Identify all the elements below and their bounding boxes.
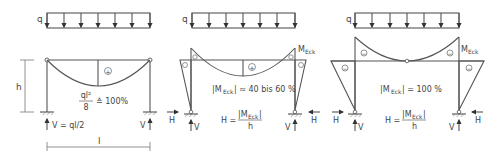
svg-text:V: V <box>140 121 146 130</box>
svg-text:V = ql/2: V = ql/2 <box>52 121 84 130</box>
frame-1: q + ql² 8 ≙ 100% h V = ql/2 V <box>16 13 157 151</box>
svg-text:H: H <box>311 116 317 125</box>
frame-2: q + M Eck |M Eck | ≈ 40 bis 60 % H = <box>167 13 320 132</box>
svg-text:q: q <box>346 14 352 24</box>
hinge-icon <box>353 110 357 114</box>
svg-text:−: − <box>342 65 347 72</box>
svg-text:|: | <box>423 110 426 119</box>
svg-text:h: h <box>248 122 253 131</box>
svg-text:V: V <box>358 123 364 132</box>
distributed-load-3: q <box>346 13 459 28</box>
svg-text:Eck: Eck <box>223 88 234 95</box>
svg-text:|: | <box>259 110 262 119</box>
distributed-load-2: q <box>182 13 295 28</box>
svg-text:V: V <box>285 123 291 132</box>
svg-text:V: V <box>194 123 200 132</box>
svg-text:ql²: ql² <box>81 91 92 100</box>
svg-text:|M: |M <box>212 85 222 94</box>
svg-text:−: − <box>466 65 471 72</box>
frame-3: q − − − − M Eck |M Eck | = 100 % <box>331 13 484 132</box>
svg-text:H: H <box>475 116 481 125</box>
svg-text:H =: H = <box>221 116 236 125</box>
svg-text:|M: |M <box>238 110 248 119</box>
svg-text:Eck: Eck <box>412 113 423 120</box>
svg-text:M: M <box>298 45 305 54</box>
svg-text:H: H <box>169 116 175 125</box>
svg-text:≙ 100%: ≙ 100% <box>96 97 129 106</box>
distributed-load-1: q <box>37 13 150 28</box>
svg-text:| ≈ 40 bis 60 %: | ≈ 40 bis 60 % <box>234 85 296 94</box>
span-label: l <box>98 136 101 146</box>
svg-text:+: + <box>105 68 110 75</box>
svg-text:H =: H = <box>385 116 400 125</box>
hinge-icon <box>189 110 193 114</box>
frame-moment-diagram: q + ql² 8 ≙ 100% h V = ql/2 V <box>0 0 503 159</box>
svg-text:|M: |M <box>402 110 412 119</box>
svg-text:|M: |M <box>380 85 390 94</box>
height-label: h <box>16 82 22 92</box>
hinge-icon <box>457 110 461 114</box>
svg-text:−: − <box>447 50 452 57</box>
svg-text:h: h <box>412 122 417 131</box>
svg-text:| = 100 %: | = 100 % <box>402 85 442 94</box>
svg-text:Eck: Eck <box>468 48 479 55</box>
svg-text:8: 8 <box>83 103 88 112</box>
svg-text:M: M <box>461 45 468 54</box>
svg-text:Eck: Eck <box>305 48 316 55</box>
svg-text:+: + <box>249 64 254 71</box>
svg-text:H: H <box>333 116 339 125</box>
svg-text:V: V <box>449 123 455 132</box>
svg-text:q: q <box>182 14 188 24</box>
load-label: q <box>37 14 43 24</box>
svg-text:−: − <box>361 50 366 57</box>
hinge-icon <box>293 110 297 114</box>
svg-text:Eck: Eck <box>391 88 402 95</box>
svg-text:Eck: Eck <box>248 113 259 120</box>
